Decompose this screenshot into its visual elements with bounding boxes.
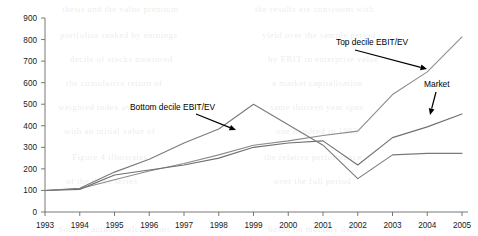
series-line-market [45, 114, 462, 191]
annotation-arrow-shaft [196, 114, 230, 128]
series-line-top-decile-ebit-ev [45, 37, 462, 190]
y-tick-label: 0 [32, 208, 37, 217]
y-axis-ticks: 0100200300400500600700800900 [23, 14, 45, 217]
x-tick-label: 2001 [314, 221, 333, 230]
series-lines [45, 37, 462, 190]
annotation-label: Bottom decile EBIT/EV [130, 102, 216, 112]
x-tick-label: 2003 [383, 221, 402, 230]
x-tick-label: 1993 [36, 221, 55, 230]
x-tick-label: 1995 [105, 221, 124, 230]
x-tick-label: 1994 [71, 221, 90, 230]
annotation-arrow-shaft [355, 50, 421, 67]
x-tick-label: 1996 [140, 221, 159, 230]
annotation-label: Market [424, 79, 450, 89]
y-tick-label: 100 [23, 186, 37, 195]
annotation-label: Top decile EBIT/EV [336, 37, 409, 47]
x-tick-label: 1998 [210, 221, 229, 230]
y-tick-label: 500 [23, 100, 37, 109]
y-tick-label: 600 [23, 79, 37, 88]
annotations-layer: Bottom decile EBIT/EVTop decile EBIT/EVM… [130, 37, 450, 130]
y-tick-label: 800 [23, 36, 37, 45]
line-chart: 0100200300400500600700800900 19931994199… [0, 0, 478, 236]
x-tick-label: 2005 [453, 221, 472, 230]
x-tick-label: 1999 [244, 221, 263, 230]
x-axis-ticks: 1993199419951996199719981999200020012002… [36, 212, 472, 230]
x-tick-label: 1997 [175, 221, 194, 230]
annotation-arrow-shaft [432, 92, 436, 109]
y-tick-label: 400 [23, 122, 37, 131]
x-tick-label: 2004 [418, 221, 437, 230]
y-tick-label: 200 [23, 165, 37, 174]
annotation-arrow-head [420, 65, 427, 71]
y-tick-label: 300 [23, 143, 37, 152]
y-tick-label: 900 [23, 14, 37, 23]
x-tick-label: 2000 [279, 221, 298, 230]
annotation-arrow-head [429, 108, 435, 115]
y-tick-label: 700 [23, 57, 37, 66]
chart-container: thesis and the value premiumthe results … [0, 0, 478, 236]
x-tick-label: 2002 [349, 221, 368, 230]
